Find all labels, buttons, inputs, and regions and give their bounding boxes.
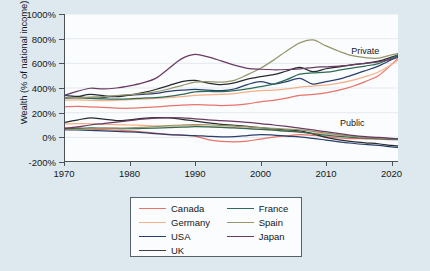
- chart-legend: CanadaGermanyUSAUK FranceSpainJapan: [130, 197, 302, 257]
- y-tick: [59, 113, 64, 114]
- x-tick-label: 1980: [119, 168, 140, 179]
- legend-label: France: [259, 202, 289, 215]
- legend-label: UK: [171, 244, 184, 257]
- x-tick: [326, 162, 327, 166]
- y-axis-spine: [64, 14, 65, 162]
- x-tick: [64, 162, 65, 166]
- y-tick-label: 1000%: [0, 9, 56, 20]
- legend-label: Germany: [171, 216, 210, 229]
- x-tick: [261, 162, 262, 166]
- x-tick: [130, 162, 131, 166]
- legend-label: Canada: [171, 202, 204, 215]
- legend-swatch-canada: [139, 208, 166, 209]
- legend-label: Spain: [259, 216, 283, 229]
- chart-figure: Wealth (% of national income) -200%0%200…: [0, 0, 430, 190]
- y-tick-label: 600%: [0, 58, 56, 69]
- legend-label: USA: [171, 230, 191, 243]
- legend-label: Japan: [259, 230, 285, 243]
- legend-item-uk[interactable]: UK: [139, 244, 219, 257]
- x-tick-label: 2010: [315, 168, 336, 179]
- plot-wrapper: -200%0%200%400%600%800%1000% 19701980199…: [64, 14, 398, 162]
- x-tick-label: 2020: [381, 168, 402, 179]
- y-tick: [59, 137, 64, 138]
- y-tick: [59, 63, 64, 64]
- legend-swatch-usa: [139, 236, 166, 237]
- x-tick-label: 1990: [184, 168, 205, 179]
- y-tick-label: 0%: [0, 132, 56, 143]
- y-tick-label: 200%: [0, 107, 56, 118]
- x-tick: [392, 162, 393, 166]
- y-tick-label: 800%: [0, 33, 56, 44]
- legend-item-japan[interactable]: Japan: [227, 230, 295, 243]
- legend-swatch-japan: [227, 236, 254, 237]
- line-private-usa: [64, 56, 398, 98]
- y-tick-label: 400%: [0, 83, 56, 94]
- legend-item-usa[interactable]: USA: [139, 230, 219, 243]
- legend-swatch-uk: [139, 250, 166, 251]
- legend-item-france[interactable]: France: [227, 202, 295, 215]
- x-tick-label: 2000: [250, 168, 271, 179]
- x-axis-spine: [64, 161, 398, 162]
- chart-page: Wealth (% of national income) -200%0%200…: [0, 0, 430, 271]
- legend-column-1: CanadaGermanyUSAUK: [139, 202, 219, 252]
- legend-swatch-germany: [139, 222, 166, 223]
- legend-column-2: FranceSpainJapan: [227, 202, 295, 252]
- y-tick: [59, 39, 64, 40]
- y-tick: [59, 88, 64, 89]
- y-tick: [59, 14, 64, 15]
- legend-swatch-france: [227, 208, 254, 209]
- series-lines: [64, 14, 398, 162]
- annotation-public: Public: [340, 118, 365, 128]
- y-tick-label: -200%: [0, 157, 56, 168]
- legend-item-germany[interactable]: Germany: [139, 216, 219, 229]
- x-tick: [195, 162, 196, 166]
- annotation-private: Private: [351, 46, 379, 56]
- legend-swatch-spain: [227, 222, 254, 223]
- legend-item-canada[interactable]: Canada: [139, 202, 219, 215]
- plot-area: [64, 14, 398, 162]
- legend-item-spain[interactable]: Spain: [227, 216, 295, 229]
- x-tick-label: 1970: [53, 168, 74, 179]
